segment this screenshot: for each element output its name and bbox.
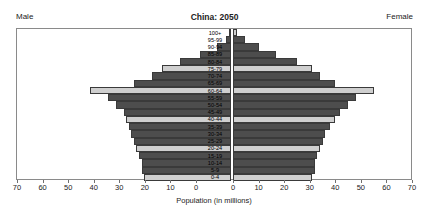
- x-axis-title: Population (in millions): [16, 196, 412, 205]
- female-bar: [233, 72, 320, 79]
- female-bar: [233, 152, 317, 159]
- female-bar: [233, 138, 323, 145]
- x-axis-tick-label: 40: [90, 183, 98, 192]
- female-bar: [233, 130, 325, 137]
- bar-rows: 100+95-9990-9485-8980-8475-7970-7465-696…: [17, 29, 411, 179]
- x-axis-tick-label: 20: [141, 183, 149, 192]
- x-axis-tick-label: 10: [166, 183, 174, 192]
- page-title: China: 2050: [0, 12, 429, 22]
- female-bar: [233, 109, 340, 116]
- female-bar: [233, 29, 237, 36]
- x-axis-tick-label: 60: [382, 183, 390, 192]
- x-axis-tick-label: 10: [254, 183, 262, 192]
- x-axis-tick-label: 30: [306, 183, 314, 192]
- female-side-label: Female: [386, 12, 413, 21]
- female-bar: [233, 80, 335, 87]
- female-bar: [233, 36, 245, 43]
- plot-area: 100+95-9990-9485-8980-8475-7970-7465-696…: [16, 28, 412, 180]
- female-bar: [233, 94, 356, 101]
- female-bar: [233, 167, 315, 174]
- population-pyramid-chart: Male China: 2050 Female 100+95-9990-9485…: [0, 0, 429, 216]
- female-bar: [233, 123, 330, 130]
- x-axis-tick-label: 50: [357, 183, 365, 192]
- x-axis: Population (in millions) 706050403020100…: [16, 180, 412, 210]
- female-bar: [233, 65, 312, 72]
- female-bar: [233, 101, 348, 108]
- x-axis-tick-label: 30: [115, 183, 123, 192]
- x-axis-tick-label: 0: [194, 183, 198, 192]
- female-bar: [233, 116, 335, 123]
- female-bar: [233, 58, 297, 65]
- x-axis-tick-label: 70: [13, 183, 21, 192]
- female-bar: [233, 145, 320, 152]
- x-axis-tick-label: 50: [64, 183, 72, 192]
- x-axis-tick-label: 70: [408, 183, 416, 192]
- x-axis-tick-label: 0: [231, 183, 235, 192]
- female-bar: [233, 87, 374, 94]
- x-axis-tick-label: 40: [331, 183, 339, 192]
- female-bar: [233, 43, 259, 50]
- x-axis-tick-label: 60: [38, 183, 46, 192]
- female-bar: [233, 51, 276, 58]
- female-bar: [233, 159, 315, 166]
- x-axis-tick-label: 20: [280, 183, 288, 192]
